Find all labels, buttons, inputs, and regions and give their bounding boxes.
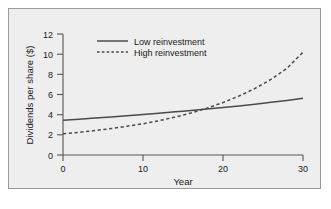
y-tick-labels: 12 10 8 6 4 2 0 [43,30,53,161]
x-tick-label-10: 10 [138,164,148,174]
y-tick-label-0: 0 [48,151,53,161]
line-chart: 12 10 8 6 4 2 0 Dividends per share ($) … [0,0,331,209]
legend-label-low-reinvestment: Low reinvestment [134,37,205,47]
y-tick-label-4: 4 [48,110,53,120]
figure-root: 12 10 8 6 4 2 0 Dividends per share ($) … [0,0,331,209]
y-axis-group: 12 10 8 6 4 2 0 Dividends per share ($) [24,30,63,161]
legend-label-high-reinvestment: High reinvestment [134,48,207,58]
y-tick-label-12: 12 [43,30,53,40]
legend: Low reinvestment High reinvestment [97,37,207,58]
y-tick-marks [57,34,63,155]
y-tick-label-8: 8 [48,70,53,80]
x-tick-label-20: 20 [218,164,228,174]
y-axis-title: Dividends per share ($) [24,46,35,145]
x-tick-labels: 0 10 20 30 [60,164,308,174]
y-tick-label-2: 2 [48,130,53,140]
series-line-low-reinvestment [63,98,303,120]
x-tick-label-30: 30 [298,164,308,174]
y-tick-label-6: 6 [48,90,53,100]
x-axis-group: 0 10 20 30 Year [60,155,308,187]
x-tick-marks [63,155,303,161]
x-axis-title: Year [173,176,192,187]
x-tick-label-0: 0 [60,164,65,174]
series-group [63,52,303,134]
series-line-high-reinvestment [63,52,303,134]
y-tick-label-10: 10 [43,50,53,60]
